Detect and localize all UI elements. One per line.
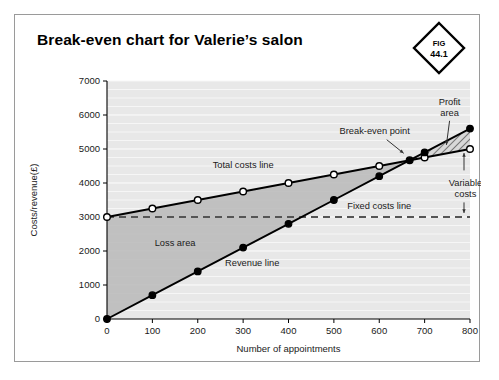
annotation-total-costs-line: Total costs line: [213, 160, 274, 170]
figure-card: Break-even chart for Valerie’s salon FIG…: [14, 14, 480, 362]
break-even-point-marker: [406, 157, 413, 164]
y-axis-title: Costs/revenue(£): [28, 164, 39, 237]
annotation-revenue-line: Revenue line: [225, 258, 279, 268]
svg-text:800: 800: [462, 325, 478, 336]
svg-text:300: 300: [235, 325, 251, 336]
svg-text:2000: 2000: [79, 245, 100, 256]
svg-text:4000: 4000: [79, 177, 100, 188]
svg-text:6000: 6000: [79, 109, 100, 120]
svg-text:500: 500: [326, 325, 342, 336]
break-even-chart: 0100200300400500600700800 01000200030004…: [15, 63, 481, 363]
annotation-profit-area-line1: Profit: [439, 97, 461, 107]
annotation-break-even-point: Break-even point: [340, 126, 411, 136]
svg-text:0: 0: [104, 325, 109, 336]
figure-badge-kicker: FIG: [433, 39, 446, 48]
annotation-variable-costs-line2: costs: [455, 189, 477, 199]
svg-text:700: 700: [417, 325, 433, 336]
annotation-profit-area-line2: area: [440, 108, 459, 118]
annotation-fixed-costs-line: Fixed costs line: [347, 201, 411, 211]
svg-text:600: 600: [371, 325, 387, 336]
svg-text:200: 200: [190, 325, 206, 336]
svg-text:3000: 3000: [79, 211, 100, 222]
x-axis-ticks: 0100200300400500600700800: [104, 319, 478, 336]
svg-text:5000: 5000: [79, 143, 100, 154]
page-title: Break-even chart for Valerie’s salon: [37, 31, 303, 49]
figure-badge-number: 44.1: [430, 49, 448, 59]
annotation-variable-costs-line1: Variable: [449, 178, 481, 188]
svg-text:7000: 7000: [79, 75, 100, 86]
y-axis-ticks: 01000200030004000500060007000: [79, 75, 107, 324]
svg-text:400: 400: [281, 325, 297, 336]
x-axis-title: Number of appointments: [236, 343, 340, 354]
annotation-loss-area: Loss area: [155, 238, 197, 248]
svg-text:100: 100: [144, 325, 160, 336]
svg-text:1000: 1000: [79, 279, 100, 290]
svg-text:0: 0: [95, 313, 100, 324]
